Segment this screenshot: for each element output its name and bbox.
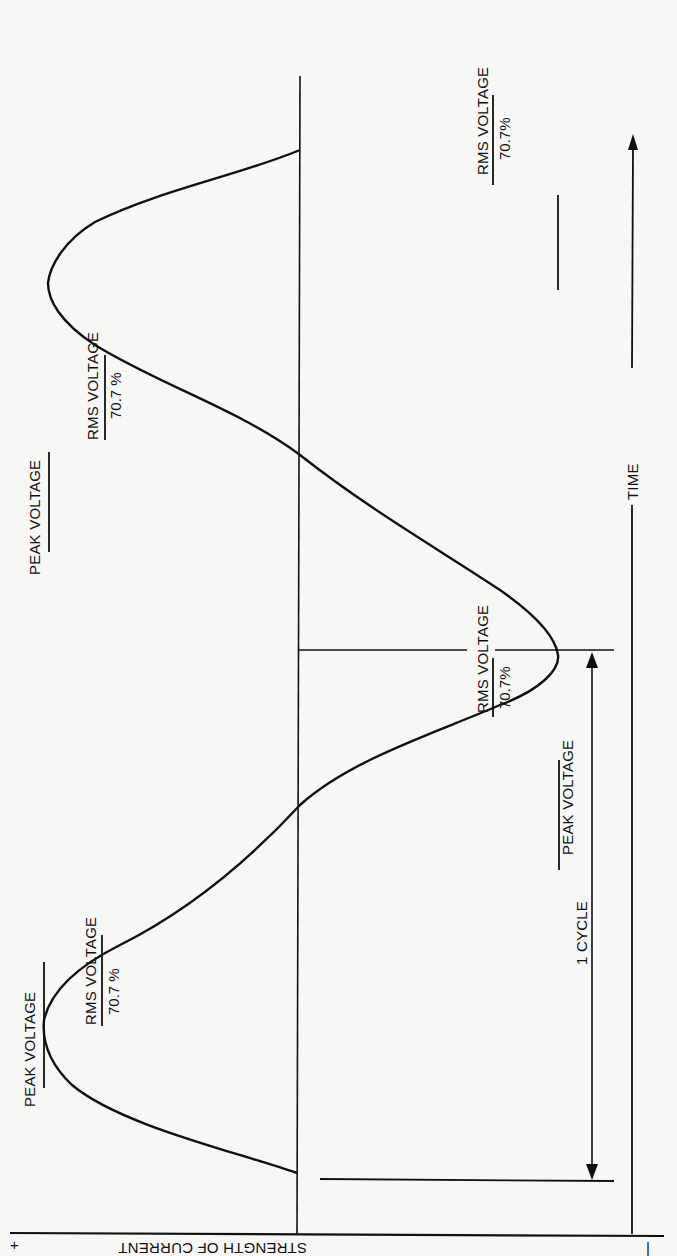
ac-sine-wave-diagram: PEAK VOLTAGE RMS VOLTAGE 70.7 % PEAK VOL…: [0, 0, 677, 1256]
minus-sign: |: [646, 1239, 650, 1256]
zero-current-axis: [297, 76, 300, 1234]
rms-percent-label-1: 70.7 %: [105, 968, 122, 1015]
current-axis-label: STRENGTH OF CURRENT: [118, 1240, 307, 1256]
rms-voltage-label-1: RMS VOLTAGE: [82, 917, 99, 1025]
cycle-arrow-down-icon: [586, 1164, 598, 1180]
rms-percent-label-4: 70.7%: [496, 117, 513, 160]
time-axis-line-upper: [632, 148, 633, 368]
rms-voltage-label-4: RMS VOLTAGE: [474, 67, 491, 175]
cycle-label: 1 CYCLE: [573, 901, 590, 965]
plus-sign: +: [10, 1236, 19, 1253]
rms-voltage-label-2: RMS VOLTAGE: [474, 605, 491, 713]
rms-voltage-label-3: RMS VOLTAGE: [84, 332, 101, 440]
peak-voltage-label-3: PEAK VOLTAGE: [26, 460, 43, 575]
time-axis-label: TIME: [624, 463, 641, 500]
peak-voltage-label-2: PEAK VOLTAGE: [559, 740, 576, 855]
rms-percent-label-2: 70.7%: [496, 666, 513, 709]
peak-voltage-label-1: PEAK VOLTAGE: [21, 992, 38, 1107]
sine-wave-curve-main: [43, 1030, 298, 1174]
cycle-arrow-up-icon: [586, 652, 598, 668]
time-arrow-icon: [628, 134, 638, 150]
cycle-start-tick: [320, 1179, 614, 1181]
rms-percent-label-3: 70.7 %: [107, 372, 124, 419]
baseline-axis: [10, 1233, 664, 1236]
